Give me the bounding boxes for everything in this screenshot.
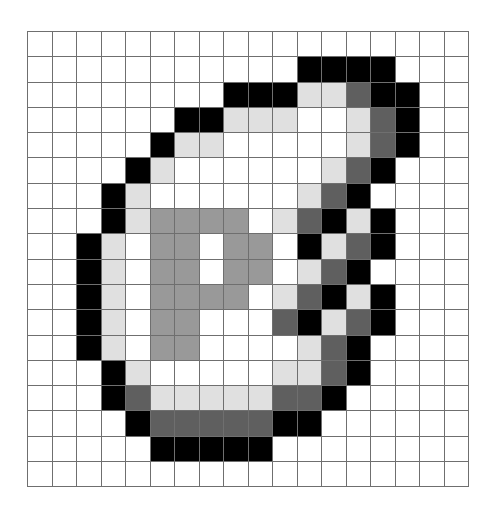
grid-cell-white[interactable] [126, 260, 151, 285]
grid-cell-dark-gray[interactable] [322, 184, 347, 209]
grid-cell-white[interactable] [273, 32, 298, 57]
grid-cell-dark-gray[interactable] [175, 411, 200, 436]
grid-cell-white[interactable] [445, 184, 470, 209]
grid-cell-mid-gray[interactable] [224, 260, 249, 285]
grid-cell-mid-gray[interactable] [151, 336, 176, 361]
grid-cell-white[interactable] [249, 57, 274, 82]
grid-cell-white[interactable] [53, 386, 78, 411]
grid-cell-white[interactable] [175, 57, 200, 82]
grid-cell-white[interactable] [102, 83, 127, 108]
grid-cell-black[interactable] [371, 57, 396, 82]
grid-cell-black[interactable] [77, 260, 102, 285]
grid-cell-white[interactable] [200, 57, 225, 82]
grid-cell-white[interactable] [420, 133, 445, 158]
grid-cell-black[interactable] [371, 83, 396, 108]
grid-cell-white[interactable] [371, 386, 396, 411]
grid-cell-white[interactable] [396, 57, 421, 82]
grid-cell-white[interactable] [445, 260, 470, 285]
grid-cell-black[interactable] [322, 209, 347, 234]
grid-cell-black[interactable] [347, 260, 372, 285]
grid-cell-black[interactable] [322, 285, 347, 310]
grid-cell-white[interactable] [445, 234, 470, 259]
grid-cell-light-gray[interactable] [322, 234, 347, 259]
grid-cell-black[interactable] [273, 83, 298, 108]
grid-cell-white[interactable] [347, 462, 372, 487]
grid-cell-white[interactable] [371, 361, 396, 386]
grid-cell-white[interactable] [445, 386, 470, 411]
grid-cell-white[interactable] [396, 411, 421, 436]
grid-cell-white[interactable] [151, 184, 176, 209]
grid-cell-white[interactable] [28, 158, 53, 183]
grid-cell-white[interactable] [126, 285, 151, 310]
grid-cell-white[interactable] [28, 184, 53, 209]
grid-cell-light-gray[interactable] [102, 310, 127, 335]
grid-cell-white[interactable] [273, 184, 298, 209]
grid-cell-white[interactable] [151, 32, 176, 57]
grid-cell-white[interactable] [445, 411, 470, 436]
grid-cell-black[interactable] [396, 83, 421, 108]
grid-cell-dark-gray[interactable] [371, 133, 396, 158]
grid-cell-white[interactable] [249, 32, 274, 57]
grid-cell-white[interactable] [126, 336, 151, 361]
grid-cell-dark-gray[interactable] [347, 310, 372, 335]
grid-cell-mid-gray[interactable] [249, 234, 274, 259]
grid-cell-white[interactable] [53, 108, 78, 133]
grid-cell-white[interactable] [396, 437, 421, 462]
grid-cell-white[interactable] [224, 462, 249, 487]
grid-cell-black[interactable] [102, 361, 127, 386]
grid-cell-white[interactable] [200, 462, 225, 487]
grid-cell-black[interactable] [126, 411, 151, 436]
grid-cell-black[interactable] [175, 437, 200, 462]
grid-cell-white[interactable] [77, 184, 102, 209]
grid-cell-white[interactable] [28, 83, 53, 108]
grid-cell-white[interactable] [126, 57, 151, 82]
grid-cell-white[interactable] [77, 361, 102, 386]
grid-cell-white[interactable] [151, 108, 176, 133]
grid-cell-light-gray[interactable] [175, 133, 200, 158]
grid-cell-light-gray[interactable] [298, 336, 323, 361]
grid-cell-black[interactable] [396, 108, 421, 133]
grid-cell-white[interactable] [53, 260, 78, 285]
grid-cell-black[interactable] [151, 133, 176, 158]
grid-cell-black[interactable] [224, 83, 249, 108]
grid-cell-white[interactable] [420, 411, 445, 436]
grid-cell-dark-gray[interactable] [224, 411, 249, 436]
grid-cell-dark-gray[interactable] [322, 260, 347, 285]
grid-cell-white[interactable] [126, 437, 151, 462]
grid-cell-white[interactable] [396, 285, 421, 310]
grid-cell-white[interactable] [445, 57, 470, 82]
grid-cell-white[interactable] [420, 437, 445, 462]
grid-cell-light-gray[interactable] [298, 184, 323, 209]
grid-cell-white[interactable] [102, 411, 127, 436]
grid-cell-white[interactable] [322, 411, 347, 436]
grid-cell-black[interactable] [102, 386, 127, 411]
grid-cell-white[interactable] [53, 83, 78, 108]
grid-cell-light-gray[interactable] [102, 336, 127, 361]
grid-cell-white[interactable] [200, 184, 225, 209]
grid-cell-white[interactable] [224, 361, 249, 386]
grid-cell-dark-gray[interactable] [322, 336, 347, 361]
grid-cell-dark-gray[interactable] [200, 411, 225, 436]
grid-cell-white[interactable] [445, 108, 470, 133]
grid-cell-white[interactable] [151, 57, 176, 82]
grid-cell-white[interactable] [126, 83, 151, 108]
grid-cell-light-gray[interactable] [298, 83, 323, 108]
grid-cell-black[interactable] [298, 411, 323, 436]
grid-cell-black[interactable] [347, 336, 372, 361]
grid-cell-white[interactable] [175, 32, 200, 57]
grid-cell-white[interactable] [102, 462, 127, 487]
grid-cell-white[interactable] [224, 32, 249, 57]
grid-cell-white[interactable] [102, 437, 127, 462]
grid-cell-black[interactable] [175, 108, 200, 133]
grid-cell-white[interactable] [322, 133, 347, 158]
grid-cell-white[interactable] [28, 361, 53, 386]
grid-cell-white[interactable] [102, 57, 127, 82]
grid-cell-dark-gray[interactable] [273, 386, 298, 411]
grid-cell-black[interactable] [249, 83, 274, 108]
grid-cell-white[interactable] [396, 158, 421, 183]
grid-cell-white[interactable] [445, 209, 470, 234]
grid-cell-white[interactable] [347, 437, 372, 462]
grid-cell-black[interactable] [298, 310, 323, 335]
grid-cell-white[interactable] [249, 310, 274, 335]
grid-cell-light-gray[interactable] [273, 361, 298, 386]
